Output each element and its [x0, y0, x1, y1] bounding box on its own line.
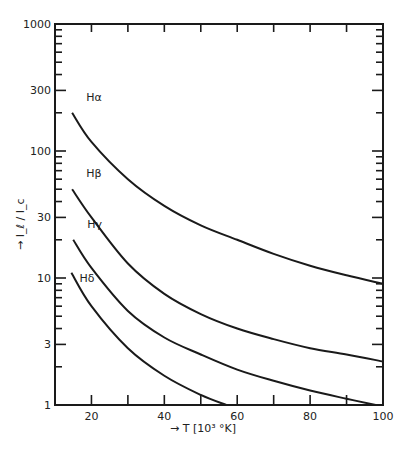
curve-h-beta — [72, 189, 383, 361]
curve-label-h-delta: Hδ — [79, 272, 94, 285]
y-tick-label: 1000 — [23, 18, 51, 31]
x-tick-label: 100 — [373, 410, 394, 423]
x-axis-title: → T [10³ °K] — [170, 422, 236, 435]
y-tick-label: 300 — [30, 84, 51, 97]
line-chart: 204060801001310301003001000HαHβHγHδ → T … — [0, 0, 409, 451]
y-tick-label: 30 — [37, 211, 51, 224]
y-axis-title: → I_ℓ / I_c — [14, 199, 27, 251]
curve-label-h-alpha: Hα — [86, 91, 102, 104]
x-tick-label: 20 — [84, 410, 98, 423]
y-tick-label: 3 — [44, 338, 51, 351]
curve-h-delta — [71, 273, 226, 405]
plot-border — [55, 24, 383, 405]
curves — [71, 113, 383, 405]
x-tick-label: 80 — [303, 410, 317, 423]
y-tick-label: 1 — [44, 399, 51, 412]
tick-labels: 204060801001310301003001000HαHβHγHδ — [23, 18, 394, 423]
y-tick-label: 100 — [30, 145, 51, 158]
curve-h-gamma — [73, 240, 375, 405]
y-tick-label: 10 — [37, 272, 51, 285]
plot-frame — [55, 24, 383, 405]
curve-h-alpha — [72, 113, 383, 284]
ticks — [55, 24, 383, 405]
curve-label-h-beta: Hβ — [86, 167, 101, 180]
